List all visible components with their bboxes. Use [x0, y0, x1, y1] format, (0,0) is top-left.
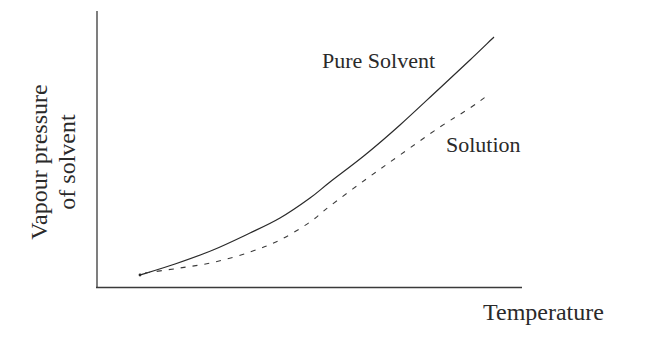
- solution-curve: [145, 95, 488, 273]
- y-axis-label: Vapour pressure of solvent: [26, 84, 80, 239]
- y-axis-label-line2: of solvent: [54, 114, 80, 210]
- curve-origin-dot: [139, 274, 142, 277]
- solution-label: Solution: [446, 132, 521, 157]
- y-axis-label-line1: Vapour pressure: [26, 84, 52, 239]
- x-axis-label: Temperature: [483, 299, 604, 325]
- vapour-pressure-diagram: Pure Solvent Solution Temperature Vapour…: [0, 0, 657, 342]
- pure-solvent-curve: [140, 37, 494, 275]
- pure-solvent-label: Pure Solvent: [322, 48, 435, 73]
